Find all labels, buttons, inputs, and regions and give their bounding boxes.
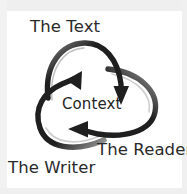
label-the-writer: The Writer	[8, 160, 95, 177]
arrowhead-icon	[68, 121, 88, 138]
label-the-reader: The Reader	[97, 142, 187, 159]
label-the-text: The Text	[30, 19, 100, 36]
arrowhead-icon	[66, 71, 82, 90]
diagram-canvas: The Text Context The Reader The Writer	[0, 0, 187, 194]
label-context: Context	[62, 97, 121, 112]
